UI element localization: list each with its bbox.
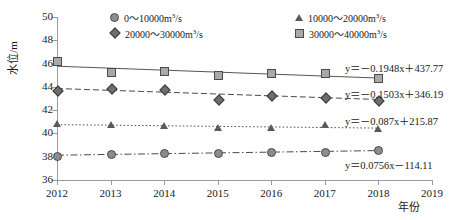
data-point-square-2013[interactable]: [107, 68, 116, 77]
x-tick-label-2018: 2018: [348, 187, 408, 199]
data-point-square-2018[interactable]: [374, 74, 383, 83]
trendline-equation-circle: y＝0.0756x－114.11: [345, 157, 432, 172]
data-point-square-2012[interactable]: [53, 57, 62, 66]
x-tick-mark-2014: [164, 180, 165, 185]
x-tick-label-2015: 2015: [188, 187, 248, 199]
data-point-circle-2017[interactable]: [321, 148, 330, 157]
data-point-triangle-2015[interactable]: [214, 124, 222, 131]
water-level-chart: 水位/m 年份 0～10000m3/s 10000～20000m3/s 2000…: [0, 0, 457, 220]
x-axis-title: 年份: [398, 198, 420, 214]
y-tick-label: 40: [42, 126, 53, 138]
y-tick-label: 46: [42, 57, 53, 69]
x-tick-label-2013: 2013: [81, 187, 141, 199]
data-point-square-2017[interactable]: [321, 69, 330, 78]
x-tick-mark-2018: [378, 180, 379, 185]
y-tick-label: 42: [42, 103, 53, 115]
x-tick-mark-2019: [432, 180, 433, 185]
y-tick-label: 36: [42, 173, 53, 185]
y-axis-title: 水位/m: [4, 29, 20, 87]
y-tick-label: 50: [42, 10, 53, 22]
trendline-equation-diamond: y＝－0.1503x＋346.19: [345, 86, 443, 101]
data-point-triangle-2012[interactable]: [53, 120, 61, 127]
x-tick-label-2016: 2016: [241, 187, 301, 199]
data-point-triangle-2013[interactable]: [107, 121, 115, 128]
trendline-equation-triangle: y＝－0.087x＋215.87: [345, 113, 438, 128]
y-tick-label: 48: [42, 33, 53, 45]
x-tick-label-2012: 2012: [27, 187, 87, 199]
x-tick-label-2019: 2019: [402, 187, 457, 199]
data-point-triangle-2016[interactable]: [267, 124, 275, 131]
trendline-equation-square: y＝－0.1948x＋437.77: [345, 60, 443, 75]
x-tick-mark-2016: [271, 180, 272, 185]
data-point-square-2016[interactable]: [267, 69, 276, 78]
x-tick-label-2017: 2017: [295, 187, 355, 199]
data-point-triangle-2017[interactable]: [321, 121, 329, 128]
data-point-triangle-2014[interactable]: [160, 122, 168, 129]
x-tick-label-2014: 2014: [134, 187, 194, 199]
data-point-square-2014[interactable]: [160, 67, 169, 76]
x-tick-mark-2017: [325, 180, 326, 185]
data-point-square-2015[interactable]: [214, 71, 223, 80]
y-tick-label: 38: [42, 150, 53, 162]
data-point-circle-2015[interactable]: [214, 149, 223, 158]
data-point-circle-2013[interactable]: [107, 150, 116, 159]
x-tick-mark-2012: [57, 180, 58, 185]
x-tick-mark-2015: [218, 180, 219, 185]
data-point-circle-2012[interactable]: [53, 152, 62, 161]
x-tick-mark-2013: [111, 180, 112, 185]
